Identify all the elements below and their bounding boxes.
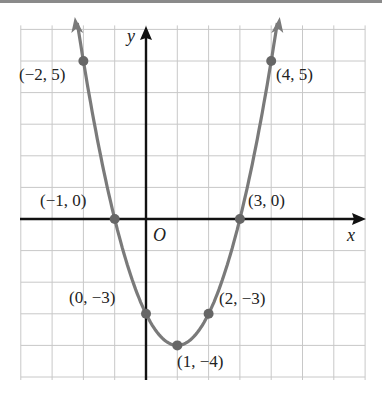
data-point-dot [141,309,151,319]
point-label: (−1, 0) [40,191,86,210]
data-point-dot [204,309,214,319]
point-label: (4, 5) [276,65,313,84]
y-axis-arrow-icon [140,26,152,40]
point-label: (−2, 5) [19,65,65,84]
data-point-dot [78,56,88,66]
x-axis-label: x [346,225,355,245]
data-point-dot [110,214,120,224]
parabola-chart: y x O (−2, 5) (4, 5) (−1, 0) (3, 0) (0, … [0,0,382,404]
data-point-dot [266,56,276,66]
origin-label: O [153,225,166,245]
point-label: (3, 0) [248,191,285,210]
point-label: (0, −3) [69,288,115,307]
data-point-dot [235,214,245,224]
point-label: (1, −4) [177,352,223,371]
point-label: (2, −3) [219,289,265,308]
data-point-dot [172,340,182,350]
x-axis-arrow-icon [352,213,366,225]
y-axis-label: y [125,26,135,46]
